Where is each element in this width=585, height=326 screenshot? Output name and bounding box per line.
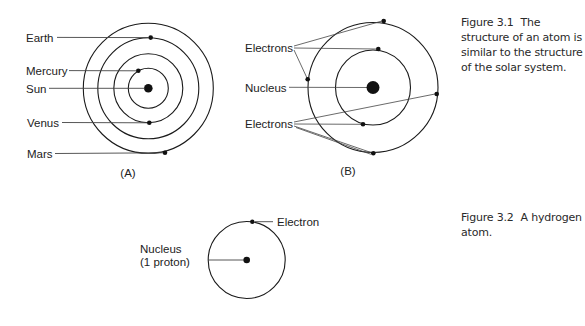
earth-dot: [148, 35, 153, 40]
hydrogen-nucleus-dot: [243, 257, 250, 264]
mars-dot: [163, 151, 168, 156]
electrons-top-label: Electrons: [245, 42, 293, 54]
electron-dot: [305, 77, 310, 82]
electrons-top-leader-3: [294, 50, 307, 78]
mars-label: Mars: [27, 148, 53, 160]
electrons-bottom-label: Electrons: [245, 118, 293, 130]
figure-3-2-number: Figure 3.2: [461, 211, 514, 224]
hydrogen-electron-label: Electron: [277, 216, 319, 228]
figure-3-1-caption: Figure 3.1The structure of an atom is si…: [461, 15, 585, 75]
mercury-label: Mercury: [26, 65, 68, 77]
electron-dot: [376, 47, 381, 52]
nucleus-label: Nucleus: [245, 82, 287, 94]
earth-label: Earth: [26, 32, 54, 44]
electrons-bottom-leader-4: [296, 128, 371, 155]
sun-dot: [144, 84, 153, 93]
hydrogen-nucleus-label: Nucleus: [140, 243, 182, 255]
venus-dot: [147, 121, 152, 126]
electron-dot: [371, 151, 376, 156]
electrons-top-leader-1: [294, 21, 382, 46]
figure-3-1-number: Figure 3.1: [461, 16, 514, 29]
hydrogen-nucleus-sublabel: (1 proton): [140, 256, 190, 268]
nucleus-dot: [367, 81, 380, 94]
sun-label: Sun: [26, 83, 46, 95]
electron-dot: [381, 19, 386, 24]
venus-label: Venus: [27, 117, 59, 129]
electrons-bottom-leader-3: [294, 126, 371, 153]
electrons-top-leader-2: [294, 48, 377, 49]
electron-dot: [434, 92, 439, 97]
electrons-bottom-leader-1: [294, 94, 435, 122]
hydrogen-electron-dot: [250, 220, 254, 224]
figure-3-2-caption: Figure 3.2A hydrogen atom.: [461, 210, 585, 240]
panel-b-label: (B): [340, 165, 356, 177]
electron-dot: [361, 122, 366, 127]
mercury-dot: [136, 69, 141, 74]
panel-a-label: (A): [120, 167, 136, 179]
